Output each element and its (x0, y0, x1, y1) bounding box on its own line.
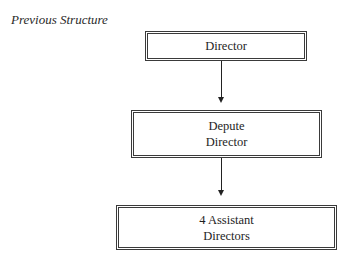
node-label: Depute (208, 118, 244, 134)
node-director: Director (145, 31, 307, 61)
node-label: Director (206, 134, 248, 150)
node-label: 4 Assistant (199, 212, 254, 228)
node-assistant-directors: 4 Assistant Directors (116, 205, 337, 250)
node-depute-director: Depute Director (131, 110, 322, 158)
diagram-heading: Previous Structure (11, 12, 108, 28)
connector-depute-to-assistants (221, 158, 222, 191)
node-label: Director (205, 38, 247, 54)
node-label: Directors (203, 228, 250, 244)
arrowhead-icon (218, 190, 224, 196)
connector-director-to-depute (221, 61, 222, 99)
arrowhead-icon (218, 97, 224, 103)
